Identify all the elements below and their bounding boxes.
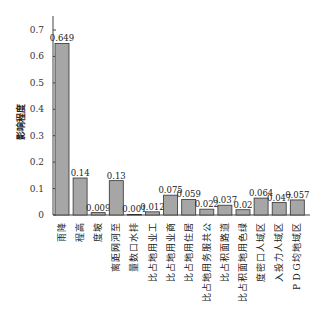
category-label-char: 商 xyxy=(165,223,176,232)
category-label-char: 入 xyxy=(274,273,284,282)
bar xyxy=(290,200,304,215)
y-axis-label: 影响程度 xyxy=(15,103,26,140)
category-label-char: 地 xyxy=(183,253,194,262)
category-label-char: 服 xyxy=(202,243,212,252)
y-tick-label: 0 xyxy=(38,210,44,220)
category-label-char: 地 xyxy=(147,253,158,262)
bar xyxy=(200,209,214,215)
category-label-char: 住 xyxy=(183,233,194,242)
category-label-char: 力 xyxy=(273,253,284,262)
category-label-char: 占 xyxy=(147,263,158,272)
category-label-char: 至 xyxy=(111,223,121,232)
category-label-char: 量 xyxy=(129,263,139,272)
bars: 0.6490.140.0090.130.0010.0120.0750.0590.… xyxy=(50,33,310,215)
bar xyxy=(218,205,232,215)
bar xyxy=(127,214,141,215)
category-label-char: 河 xyxy=(110,233,121,242)
category-label-char: 密 xyxy=(255,263,266,272)
bar-value-label: 0.012 xyxy=(140,202,164,212)
category-label-char: 地 xyxy=(165,253,176,262)
category-label-char: D xyxy=(292,273,302,280)
category-label-char: 区 xyxy=(274,223,284,232)
bar-chart: 影响程度 00.10.20.30.40.50.60.7 0.6490.140.0… xyxy=(0,0,325,315)
bar xyxy=(164,195,178,215)
category-label-char: 占 xyxy=(219,263,230,272)
category-label-char: 地 xyxy=(201,273,212,282)
bar-value-label: 0.02 xyxy=(234,200,253,210)
category-label-char: 地 xyxy=(237,253,248,262)
y-tick-label: 0.1 xyxy=(30,184,44,194)
category-label-char: 程 xyxy=(75,233,85,242)
category-label-char: 用 xyxy=(184,243,194,252)
category-label-char: 均 xyxy=(291,253,302,262)
category-label-char: 离 xyxy=(110,263,121,272)
category-label-char: 比 xyxy=(165,273,176,282)
y-tick-label: 0.2 xyxy=(30,157,44,167)
category-label-char: 用 xyxy=(202,263,212,272)
y-tick-label: 0.5 xyxy=(30,78,45,88)
bar-value-label: 0.059 xyxy=(177,189,201,199)
category-label-char: 域 xyxy=(273,233,284,242)
category-label-char: 网 xyxy=(111,243,121,252)
category-label-char: 比 xyxy=(201,293,212,302)
category-label-char: 占 xyxy=(201,283,212,292)
bar xyxy=(146,212,160,215)
category-label-char: 域 xyxy=(255,233,266,242)
bar-value-label: 0.009 xyxy=(86,203,110,213)
category-label-char: 占 xyxy=(237,283,248,292)
category-label-char: 人 xyxy=(274,243,284,252)
bar xyxy=(236,210,250,215)
category-label-char: 排 xyxy=(128,223,139,232)
bar-value-label: 0.14 xyxy=(71,168,90,178)
category-label-char: 绿 xyxy=(237,223,248,232)
category-label-char: 业 xyxy=(148,233,158,242)
category-label-char: 用 xyxy=(166,243,176,252)
category-label-char: 口 xyxy=(256,253,266,262)
category-label-char: 务 xyxy=(201,253,212,262)
bar xyxy=(182,199,196,215)
category-label-char: 口 xyxy=(129,243,139,252)
category-label-char: 路 xyxy=(219,233,230,242)
category-label-char: 积 xyxy=(237,273,248,282)
category-label-char: 比 xyxy=(183,273,194,282)
category-label-char: 业 xyxy=(166,233,176,242)
category-label-char: 投 xyxy=(273,263,284,272)
x-axis-labels: 降雨高程坡度至河网距离排水口数量工业用地占比商业用地占比居住用地占比公共服务用地… xyxy=(56,223,302,302)
bar-value-label: 0.649 xyxy=(50,33,74,43)
category-label-char: P xyxy=(292,284,302,290)
category-label-char: 比 xyxy=(219,273,230,282)
category-label-char: 居 xyxy=(184,223,194,232)
category-label-char: 面 xyxy=(220,243,230,252)
category-label-char: 道 xyxy=(219,223,230,232)
bar xyxy=(254,198,268,215)
category-label-char: 用 xyxy=(238,243,248,252)
category-label-char: 区 xyxy=(256,223,266,232)
category-label-char: 共 xyxy=(202,233,212,242)
bar-value-label: 0.13 xyxy=(107,171,126,181)
y-tick-label: 0.6 xyxy=(30,51,45,61)
category-label-char: 用 xyxy=(148,243,158,252)
y-tick-label: 0.4 xyxy=(30,104,45,114)
bar xyxy=(73,178,87,215)
category-label-char: 雨 xyxy=(57,233,67,242)
category-label-char: 积 xyxy=(219,253,230,262)
category-label-char: 比 xyxy=(237,293,248,302)
category-label-char: 公 xyxy=(202,223,212,232)
category-label-char: 度 xyxy=(92,233,103,242)
category-label-char: 占 xyxy=(165,263,176,272)
bar xyxy=(55,43,69,215)
category-label-char: 水 xyxy=(128,233,139,242)
category-label-char: 人 xyxy=(256,243,266,252)
category-label-char: G xyxy=(292,263,302,270)
category-label-char: 降 xyxy=(56,223,67,232)
category-label-char: 坡 xyxy=(92,223,103,232)
category-label-char: 色 xyxy=(237,233,248,242)
category-label-char: 工 xyxy=(148,223,158,232)
category-label-char: 高 xyxy=(74,223,85,232)
category-label-char: 面 xyxy=(238,263,248,272)
bar xyxy=(272,203,286,215)
category-label-char: 域 xyxy=(291,233,302,242)
category-label-char: 距 xyxy=(111,253,121,262)
bar xyxy=(109,181,123,215)
bar-value-label: 0.057 xyxy=(285,190,309,200)
